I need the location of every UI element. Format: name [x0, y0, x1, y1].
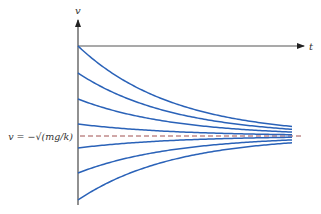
solution-curve — [78, 73, 292, 129]
solution-curve — [78, 46, 292, 126]
solution-curve — [78, 137, 292, 148]
v-axis-label: v — [75, 5, 81, 16]
equilibrium-label: v = −√(mg/k) — [8, 131, 73, 142]
t-axis-label: t — [309, 41, 314, 52]
solution-curves — [78, 46, 292, 200]
diagram-canvas: v t v = −√(mg/k) — [0, 0, 321, 214]
solution-curve — [78, 124, 292, 135]
solution-curve — [78, 143, 292, 200]
